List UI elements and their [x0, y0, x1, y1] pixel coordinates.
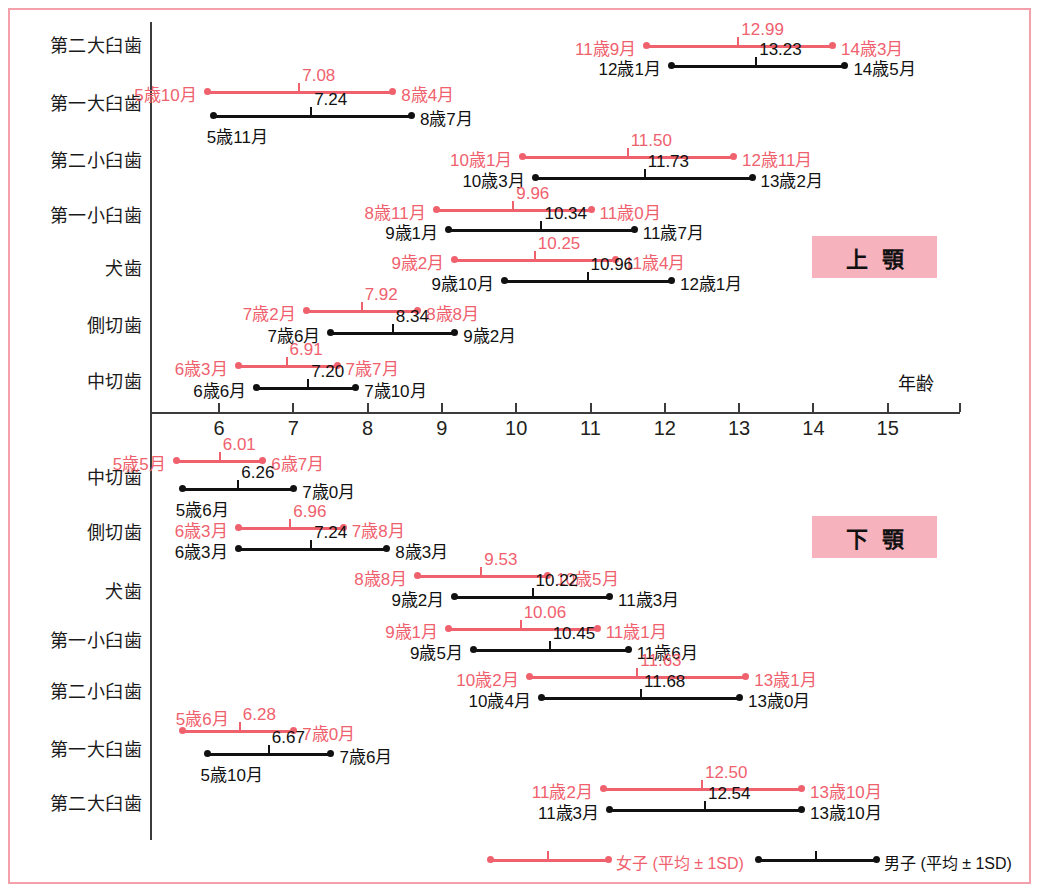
lower-tooth6-female-start-dot [600, 785, 607, 792]
upper-tooth0-male-end-dot [841, 62, 848, 69]
lower-row-label-3: 第一小臼歯 [20, 626, 142, 652]
lower-tooth0-male-start-dot [179, 485, 186, 492]
upper-tooth1-male-end-label: 8歳7月 [420, 105, 473, 130]
lower-row-label-6: 第二大臼歯 [20, 789, 142, 815]
upper-tooth4-male-start-dot [501, 277, 508, 284]
upper-tooth6-male-end-label: 7歳10月 [364, 377, 426, 402]
upper-tooth2-female-mean-tick [627, 148, 629, 158]
upper-tooth3-male-end-dot [631, 226, 638, 233]
upper-row-label-2: 第二小臼歯 [20, 146, 142, 172]
lower-tooth0-female-start-dot [173, 457, 180, 464]
lower-tooth4-male-start-dot [538, 694, 545, 701]
x-axis-title: 年齢 [898, 369, 934, 395]
legend-male-mean-tick [815, 851, 817, 861]
upper-row-label-4: 犬歯 [20, 254, 142, 280]
lower-tooth4-male-mean-tick [640, 689, 642, 699]
legend-male-start-dot [755, 856, 762, 863]
upper-tooth1-male-mean-tick [310, 107, 312, 117]
upper-tooth4-female-end-label: 11歳4月 [624, 249, 685, 274]
upper-tooth2-male-end-label: 13歳2月 [761, 167, 823, 192]
upper-tooth2-male-mean-label: 11.73 [648, 152, 689, 172]
x-axis-tick-label: 14 [793, 417, 833, 440]
y-axis-line-lower [150, 414, 152, 840]
lower-tooth3-male-end-dot [625, 646, 632, 653]
legend-female-end-dot [605, 856, 612, 863]
upper-tooth6-male-range [256, 387, 355, 390]
lower-tooth4-male-mean-label: 11.68 [644, 672, 685, 692]
x-axis-tick-label: 12 [645, 417, 685, 440]
lower-tooth4-female-start-dot [526, 673, 533, 680]
lower-tooth5-male-end-label: 7歳6月 [339, 743, 392, 768]
x-axis-tick-label: 9 [422, 417, 462, 440]
upper-tooth6-female-start-dot [235, 362, 242, 369]
lower-tooth5-female-end-label: 7歳0月 [302, 720, 355, 745]
upper-tooth6-male-mean-label: 7.20 [311, 362, 344, 382]
upper-tooth3-male-start-dot [445, 226, 452, 233]
lower-tooth1-male-mean-label: 7.24 [314, 523, 347, 543]
lower-tooth0-male-mean-tick [237, 480, 239, 490]
lower-tooth0-male-end-dot [290, 485, 297, 492]
x-axis-tick [292, 403, 294, 412]
upper-tooth4-female-mean-tick [534, 251, 536, 261]
legend-female-mean-tick [547, 851, 549, 861]
upper-tooth6-female-mean-label: 6.91 [290, 340, 323, 360]
upper-tooth6-male-end-dot [352, 384, 359, 391]
lower-tooth3-female-mean-tick [520, 620, 522, 630]
upper-tooth5-female-start-dot [303, 307, 310, 314]
upper-tooth5-male-end-dot [451, 329, 458, 336]
upper-tooth6-female-mean-tick [286, 357, 288, 367]
upper-tooth3-male-start-label: 9歳1月 [238, 219, 438, 244]
lower-row-label-5: 第一大臼歯 [20, 735, 142, 761]
upper-tooth2-male-start-label: 10歳3月 [325, 167, 525, 192]
lower-tooth6-male-mean-label: 12.54 [708, 784, 751, 804]
upper-tooth6-male-mean-tick [307, 379, 309, 389]
jaw-label-upper: 上顎 [812, 236, 937, 278]
upper-tooth2-female-end-dot [730, 153, 737, 160]
chart-plot-area: 6789101112131415年齢上顎下顎第二大臼歯12.9911歳9月14歳… [0, 0, 1043, 896]
legend-male-label: 男子 (平均 ± 1SD) [884, 850, 1012, 874]
upper-tooth3-female-mean-label: 9.96 [516, 184, 549, 204]
x-axis-tick-label: 10 [496, 417, 536, 440]
lower-tooth5-male-mean-label: 6.67 [272, 728, 305, 748]
upper-tooth4-male-end-dot [668, 277, 675, 284]
x-axis-tick-label: 7 [273, 417, 313, 440]
dental-eruption-chart: 6789101112131415年齢上顎下顎第二大臼歯12.9911歳9月14歳… [0, 0, 1043, 896]
upper-tooth0-male-start-dot [668, 62, 675, 69]
upper-row-label-3: 第一小臼歯 [20, 201, 142, 227]
x-axis-tick-label: 8 [348, 417, 388, 440]
legend-female-range [490, 859, 608, 862]
upper-tooth3-female-mean-tick [512, 201, 514, 211]
lower-tooth5-female-mean-label: 6.28 [243, 705, 276, 725]
upper-tooth1-female-mean-tick [298, 83, 300, 93]
lower-tooth0-female-mean-tick [219, 452, 221, 462]
lower-tooth0-male-mean-label: 6.26 [241, 463, 274, 483]
lower-tooth0-female-mean-label: 6.01 [223, 435, 256, 455]
x-axis-tick-label: 11 [571, 417, 611, 440]
lower-tooth5-male-end-dot [327, 750, 334, 757]
lower-tooth5-male-start-dot [204, 750, 211, 757]
upper-tooth1-male-end-dot [408, 112, 415, 119]
lower-tooth2-male-mean-label: 10.22 [536, 571, 579, 591]
upper-tooth2-male-mean-tick [644, 169, 646, 179]
upper-tooth3-female-start-dot [433, 206, 440, 213]
upper-tooth5-female-mean-label: 7.92 [365, 285, 398, 305]
x-axis-tick [218, 403, 220, 412]
lower-tooth5-male-start-label: 5歳10月 [201, 761, 263, 786]
lower-tooth3-male-start-dot [470, 646, 477, 653]
upper-tooth5-female-mean-tick [361, 302, 363, 312]
upper-tooth2-female-mean-label: 11.50 [631, 131, 672, 151]
lower-row-label-2: 犬歯 [20, 577, 142, 603]
lower-tooth6-male-start-label: 11歳3月 [399, 799, 599, 824]
upper-tooth1-female-mean-label: 7.08 [302, 66, 335, 86]
x-axis-line [150, 412, 960, 414]
lower-tooth0-female-end-label: 6歳7月 [271, 450, 324, 475]
x-axis-tick-end [959, 403, 961, 412]
upper-tooth0-male-start-label: 12歳1月 [461, 55, 661, 80]
lower-tooth5-female-start-label: 5歳6月 [176, 705, 229, 730]
lower-tooth3-male-mean-label: 10.45 [553, 624, 596, 644]
upper-tooth1-female-start-dot [204, 88, 211, 95]
lower-tooth0-female-start-label: 5歳5月 [0, 450, 166, 475]
upper-tooth0-male-range [671, 65, 844, 68]
lower-tooth2-male-start-label: 9歳2月 [244, 586, 444, 611]
lower-tooth3-female-mean-label: 10.06 [524, 603, 567, 623]
